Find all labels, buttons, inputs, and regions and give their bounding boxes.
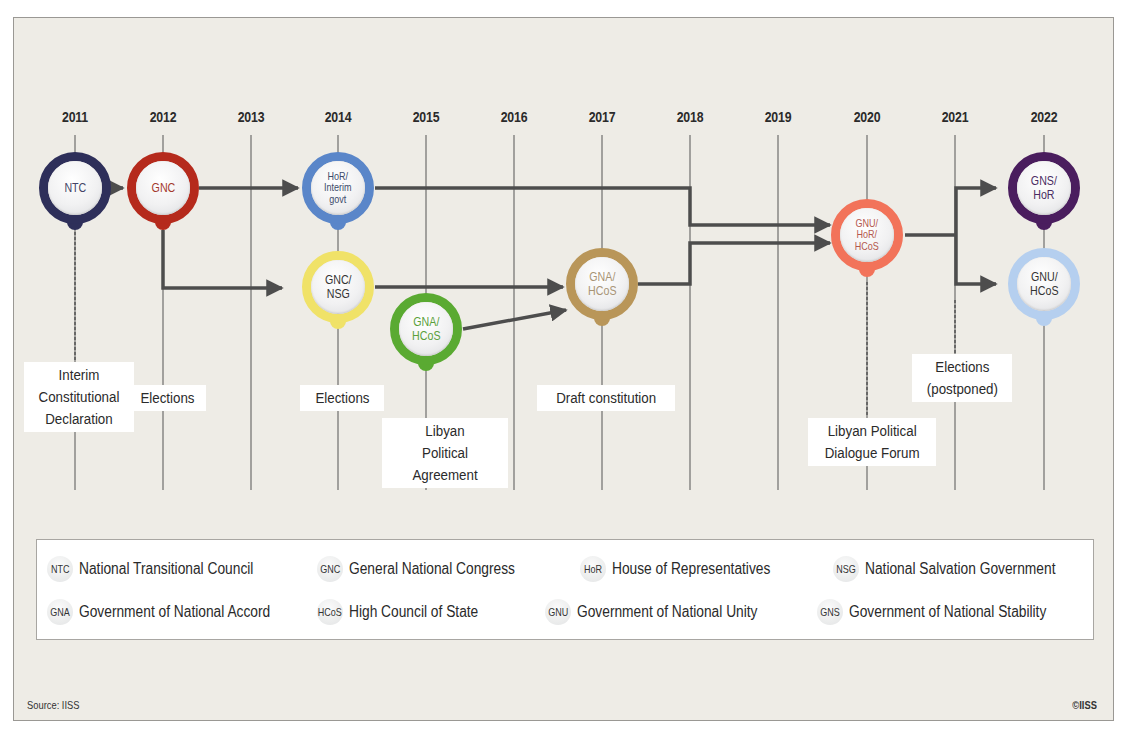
node-gnahcos: GNA/ HCoS: [566, 248, 638, 328]
node-ring: GNA/ HCoS: [566, 248, 638, 320]
node-ring: NTC: [39, 152, 111, 224]
arrow-gnahcos-gnu: [638, 243, 830, 284]
node-ring: GNU/ HCoS: [1008, 248, 1080, 320]
legend-badge-icon: HCoS: [317, 599, 343, 625]
legend-item-gns: GNSGovernment of National Stability: [817, 597, 1078, 627]
event-label: Libyan Political Dialogue Forum: [808, 418, 936, 466]
node-gnc: GNC: [127, 152, 199, 232]
legend-item-gnc: GNCGeneral National Congress: [317, 554, 542, 584]
node-ring: GNC/ NSG: [302, 251, 374, 323]
node-label: GNU/ HCoS: [1030, 270, 1058, 298]
node-label: GNS/ HoR: [1031, 174, 1057, 202]
node-ring: GNS/ HoR: [1008, 152, 1080, 224]
legend-badge-icon: NSG: [833, 556, 859, 582]
source-note: Source: IISS: [27, 699, 80, 711]
legend-badge-icon: GNS: [817, 599, 843, 625]
node-gnu: GNU/ HCoS: [1008, 248, 1080, 328]
node-label: GNU/ HoR/ HCoS: [855, 218, 879, 253]
legend-item-nsg: NSGNational Salvation Government: [833, 554, 1086, 584]
event-label: Draft constitution: [537, 385, 675, 411]
node-ring: GNC: [127, 152, 199, 224]
legend-text: General National Congress: [349, 560, 515, 578]
node-ring: HoR/ Interim govt: [302, 152, 374, 224]
node-gnuhor: GNU/ HoR/ HCoS: [831, 199, 903, 279]
legend-text: Government of National Stability: [849, 603, 1046, 621]
event-label: Elections (postponed): [912, 354, 1012, 402]
node-label: HoR/ Interim govt: [324, 171, 352, 206]
node-label: GNA/ HCoS: [412, 315, 440, 343]
node-ntc: NTC: [39, 152, 111, 232]
legend-text: National Salvation Government: [865, 560, 1055, 578]
event-label: Interim Constitutional Declaration: [24, 362, 134, 432]
legend-item-gna: GNAGovernment of National Accord: [47, 597, 301, 627]
legend-badge-icon: GNU: [545, 599, 571, 625]
legend-badge-icon: HoR: [580, 556, 606, 582]
node-gna: GNA/ HCoS: [390, 293, 462, 373]
node-gns: GNS/ HoR: [1008, 152, 1080, 232]
node-gncnsg: GNC/ NSG: [302, 251, 374, 331]
legend-badge-icon: GNA: [47, 599, 73, 625]
arrow-to-gns: [956, 188, 996, 235]
legend-item-ntc: NTCNational Transitional Council: [47, 554, 282, 584]
legend-item-hor: HoRHouse of Representatives: [580, 554, 796, 584]
legend-text: High Council of State: [349, 603, 478, 621]
arrow-to-gnu: [956, 235, 996, 284]
legend-text: Government of National Unity: [577, 603, 757, 621]
legend-item-gnu: GNUGovernment of National Unity: [545, 597, 787, 627]
node-ring: GNU/ HoR/ HCoS: [831, 199, 903, 271]
node-label: NTC: [64, 181, 86, 195]
copyright: ©IISS: [1072, 699, 1097, 711]
event-label: Elections: [300, 385, 384, 411]
legend: NTCNational Transitional CouncilGNCGener…: [36, 539, 1094, 640]
arrow-gnc-nsg: [163, 230, 282, 288]
node-hor: HoR/ Interim govt: [302, 152, 374, 232]
node-label: GNA/ HCoS: [588, 270, 616, 298]
legend-badge-icon: NTC: [47, 556, 73, 582]
event-label: Libyan Political Agreement: [382, 418, 508, 488]
node-ring: GNA/ HCoS: [390, 293, 462, 365]
event-label: Elections: [128, 385, 206, 411]
legend-text: National Transitional Council: [79, 560, 253, 578]
node-label: GNC: [151, 181, 175, 195]
legend-text: House of Representatives: [612, 560, 770, 578]
legend-item-hcos: HCoSHigh Council of State: [317, 597, 499, 627]
node-label: GNC/ NSG: [325, 273, 352, 301]
legend-text: Government of National Accord: [79, 603, 270, 621]
legend-badge-icon: GNC: [317, 556, 343, 582]
